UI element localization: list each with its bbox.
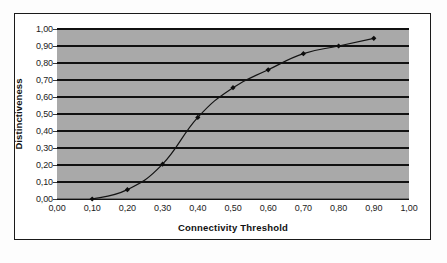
gridline — [57, 96, 409, 98]
y-axis-tick-label: 1,00 — [0, 24, 53, 34]
gridline — [57, 147, 409, 149]
y-axis-tick-mark — [53, 46, 57, 47]
y-axis-title: Distinctiveness — [13, 78, 24, 149]
y-axis-tick-mark — [53, 182, 57, 183]
y-axis-tick-label: 0,60 — [0, 92, 53, 102]
y-axis-tick-label: 0,30 — [0, 143, 53, 153]
gridline — [57, 113, 409, 115]
y-axis-tick-label: 0,70 — [0, 75, 53, 85]
gridline — [57, 79, 409, 81]
gridline — [57, 181, 409, 183]
y-axis-tick-label: 0,90 — [0, 41, 53, 51]
x-axis-tick-label: 1,00 — [387, 203, 431, 213]
y-axis-tick-mark — [53, 97, 57, 98]
y-axis-tick-mark — [53, 131, 57, 132]
y-axis-tick-mark — [53, 63, 57, 64]
y-axis-tick-mark — [53, 199, 57, 200]
x-axis-title: Connectivity Threshold — [57, 222, 409, 233]
x-axis-line — [57, 198, 409, 199]
y-axis-tick-label: 0,50 — [0, 109, 53, 119]
y-axis-tick-label: 0,10 — [0, 177, 53, 187]
gridline — [57, 45, 409, 47]
gridline — [57, 130, 409, 132]
gridline — [57, 62, 409, 64]
y-axis-tick-mark — [53, 29, 57, 30]
y-axis-tick-label: 0,80 — [0, 58, 53, 68]
y-axis-tick-mark — [53, 80, 57, 81]
gridline — [57, 28, 409, 30]
y-axis-tick-mark — [53, 114, 57, 115]
gridline — [57, 164, 409, 166]
y-axis-tick-mark — [53, 148, 57, 149]
chart-figure: 0,000,100,200,300,400,500,600,700,800,90… — [0, 0, 447, 263]
y-axis-tick-mark — [53, 165, 57, 166]
y-axis-tick-label: 0,20 — [0, 160, 53, 170]
y-axis-tick-label: 0,40 — [0, 126, 53, 136]
